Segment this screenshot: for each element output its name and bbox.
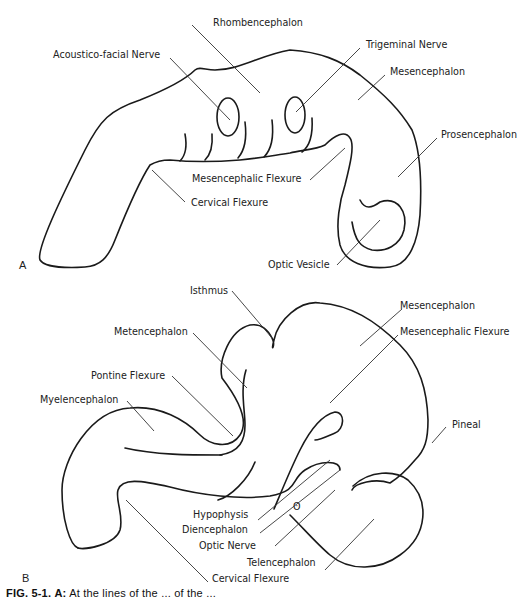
panel-a-brain-outline [40,50,421,268]
label-hypophysis: Hypophysis [193,509,248,520]
panel-b-inner-outline [78,463,340,549]
label-mesencephalic-flexure-b: Mesencephalic Flexure [400,326,509,337]
panel-b-letter: B [22,572,29,584]
label-mesencephalic-flexure-a: Mesencephalic Flexure [192,173,301,184]
label-rhombencephalon: Rhombencephalon [213,17,303,28]
metencephalon-fold [125,448,222,455]
neuromere-groove [264,120,273,157]
neuromere-groove [238,122,246,158]
panel-b: ʘ Isthmus Mesencephalon Mesencephalic Fl… [22,285,509,584]
caption-text: At the lines of the ... of the ... [69,587,216,599]
panel-a: Rhombencephalon Acoustico-facial Nerve T… [19,17,517,271]
label-pineal: Pineal [452,419,481,430]
label-optic-nerve: Optic Nerve [199,540,256,551]
label-optic-vesicle: Optic Vesicle [268,259,330,270]
label-diencephalon: Diencephalon [182,524,248,535]
figure-caption: FIG. 5-1. A: At the lines of the ... of … [6,587,216,599]
label-metencephalon: Metencephalon [114,326,188,337]
label-cervical-flexure-b: Cervical Flexure [212,573,289,584]
label-prosencephalon: Prosencephalon [441,129,517,140]
acoustico-facial-nerve-shape [217,98,239,136]
label-mesencephalon-b: Mesencephalon [400,300,475,311]
diencephalon-fold [218,462,255,500]
label-trigeminal-nerve: Trigeminal Nerve [365,39,447,50]
label-pontine-flexure: Pontine Flexure [91,370,165,381]
optic-vesicle-shape [352,200,405,250]
panel-a-letter: A [19,259,27,271]
label-acoustico-facial-nerve: Acoustico-facial Nerve [53,49,160,60]
telencephalon-outline [290,473,423,567]
label-mesencephalon-a: Mesencephalon [390,66,465,77]
trigeminal-nerve-shape [285,97,305,133]
label-myelencephalon: Myelencephalon [40,394,118,405]
figure-number: FIG. 5-1. [6,587,51,599]
neuromere-groove [180,134,186,161]
embryonic-brain-diagram: Rhombencephalon Acoustico-facial Nerve T… [0,0,532,599]
label-cervical-flexure-a: Cervical Flexure [191,197,268,208]
caption-part-label: A: [54,587,66,599]
label-telencephalon: Telencephalon [246,557,316,568]
label-isthmus: Isthmus [190,285,228,296]
neuromere-groove [205,134,212,160]
